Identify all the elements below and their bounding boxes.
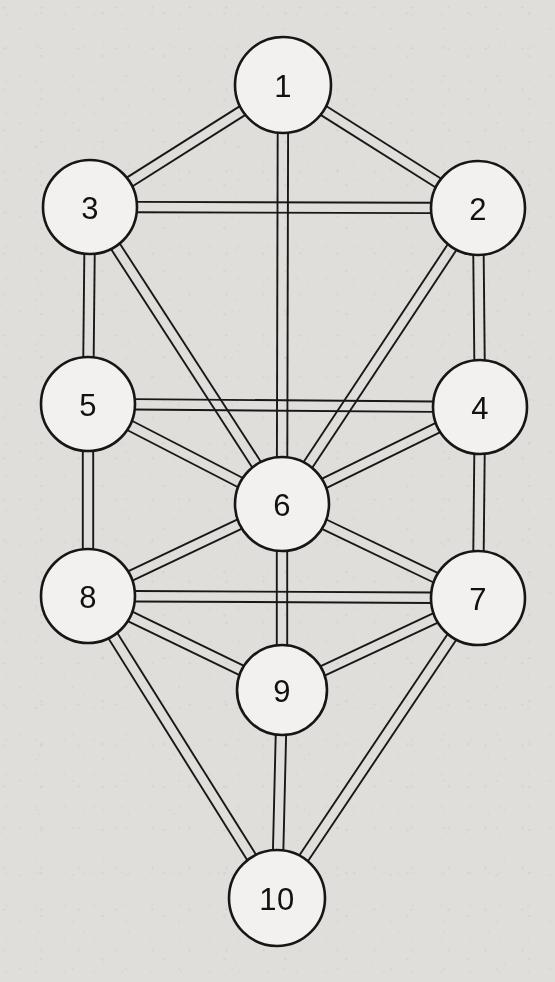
edge-stroke [135,601,432,603]
tree-of-life-svg: 12345678910 [0,0,555,982]
edge-stroke [326,106,441,179]
node-label-6: 6 [273,488,291,523]
edge-stroke [128,621,240,675]
node-7[interactable]: 7 [431,551,525,645]
node-label-4: 4 [471,391,489,426]
edge-6-9 [277,551,287,646]
edge-2-4 [473,255,484,361]
node-3[interactable]: 3 [43,160,137,254]
edge-stroke [132,529,242,581]
edge-stroke [283,735,286,851]
edge-3-2 [137,202,432,213]
node-label-8: 8 [79,580,97,615]
edge-stroke [484,255,485,361]
edge-stroke [322,529,434,583]
edge-7-10 [299,634,456,861]
edge-stroke [322,423,436,479]
edge-stroke [320,613,433,666]
edge-stroke [132,421,243,478]
edge-8-6 [128,519,242,580]
edge-stroke [111,249,252,468]
edge-stroke [277,133,278,458]
edge-stroke [326,432,440,488]
edge-9-10 [273,735,286,851]
edge-4-6 [322,423,441,488]
edge-2-6 [303,244,456,468]
node-6[interactable]: 6 [235,457,329,551]
edge-7-6 [322,520,438,583]
edge-stroke [127,430,238,487]
edge-stroke [94,254,95,358]
edge-stroke [135,399,434,401]
edge-5-8 [83,451,93,550]
edge-5-4 [135,399,434,412]
edge-1-3 [127,106,246,186]
edge-stroke [473,454,474,552]
edge-stroke [321,115,436,188]
node-label-3: 3 [81,191,99,226]
edge-stroke [137,212,432,213]
node-label-9: 9 [273,674,291,709]
edge-stroke [137,202,432,203]
node-label-7: 7 [469,582,487,617]
edge-stroke [484,454,485,552]
edge-8-7 [135,591,432,603]
edge-stroke [303,244,447,462]
edge-stroke [127,106,240,178]
edge-8-9 [128,612,244,676]
node-10[interactable]: 10 [229,850,325,946]
node-label-2: 2 [469,192,487,227]
node-5[interactable]: 5 [41,357,135,451]
edge-stroke [325,623,438,676]
node-label-5: 5 [79,388,97,423]
node-1[interactable]: 1 [235,37,331,133]
node-8[interactable]: 8 [41,549,135,643]
edge-3-5 [83,254,94,358]
tree-of-life-diagram: 12345678910 [0,0,555,982]
edge-stroke [473,255,474,361]
edge-7-9 [320,613,438,676]
node-label-1: 1 [274,69,292,104]
edge-5-6 [127,421,243,487]
edge-1-2 [321,106,442,187]
node-label-10: 10 [259,882,294,917]
edge-stroke [120,243,261,462]
edge-stroke [132,612,244,666]
edge-4-7 [473,454,484,552]
node-9[interactable]: 9 [237,645,327,735]
edge-stroke [83,254,84,358]
edge-stroke [108,638,247,860]
edge-1-6 [277,133,288,458]
edge-stroke [326,520,438,574]
edge-stroke [273,735,276,851]
edge-stroke [135,591,432,593]
node-2[interactable]: 2 [431,161,525,255]
edge-stroke [128,519,238,571]
edge-stroke [132,115,245,187]
edge-stroke [135,410,434,412]
edge-8-10 [108,633,256,860]
edge-stroke [287,133,288,458]
edge-stroke [117,633,256,855]
node-4[interactable]: 4 [433,360,527,454]
